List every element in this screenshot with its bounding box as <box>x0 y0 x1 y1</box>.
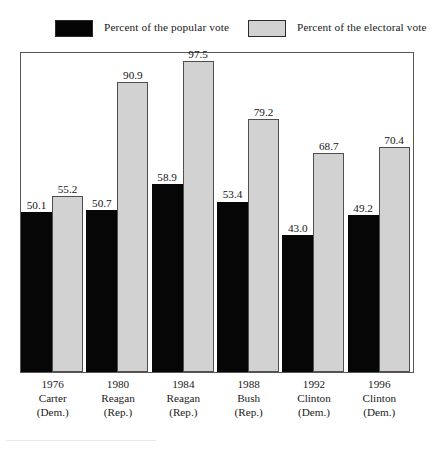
bar-group: 50.155.2 <box>21 53 86 372</box>
bar-electoral-vote[interactable]: 79.2 <box>248 119 279 372</box>
bar-wrap-electoral: 68.7 <box>313 53 344 372</box>
bar-wrap-popular: 43.0 <box>282 53 313 372</box>
bar-popular-vote[interactable]: 53.4 <box>217 202 248 372</box>
chart-plot-frame: 50.155.250.790.958.997.553.479.243.068.7… <box>20 52 414 373</box>
x-axis-party: (Rep.) <box>216 405 281 419</box>
bar-value-electoral: 90.9 <box>123 70 143 81</box>
chart-plot-area: 50.155.250.790.958.997.553.479.243.068.7… <box>21 53 413 372</box>
bar-group: 53.479.2 <box>217 53 282 372</box>
x-axis-group-label: 1984Reagan(Rep.) <box>151 377 216 420</box>
x-axis-party: (Dem.) <box>281 405 346 419</box>
x-axis-year: 1988 <box>216 377 281 391</box>
x-axis-party: (Rep.) <box>151 405 216 419</box>
bar-popular-vote[interactable]: 43.0 <box>282 235 313 372</box>
legend-label-electoral-vote: Percent of the electoral vote <box>297 22 427 33</box>
bar-popular-vote[interactable]: 49.2 <box>348 215 379 372</box>
bar-wrap-electoral: 97.5 <box>183 53 214 372</box>
bar-wrap-popular: 53.4 <box>217 53 248 372</box>
x-axis-year: 1976 <box>20 377 85 391</box>
x-axis-group-label: 1996Clinton(Dem.) <box>347 377 412 420</box>
x-axis-year: 1996 <box>347 377 412 391</box>
bar-value-electoral: 79.2 <box>254 107 274 118</box>
x-axis-party: (Dem.) <box>20 405 85 419</box>
bar-wrap-popular: 50.7 <box>86 53 117 372</box>
bar-group: 49.270.4 <box>348 53 413 372</box>
bar-wrap-electoral: 79.2 <box>248 53 279 372</box>
bar-electoral-vote[interactable]: 97.5 <box>183 61 214 372</box>
bar-popular-vote[interactable]: 58.9 <box>152 184 183 372</box>
legend-swatch-black-icon <box>55 20 93 37</box>
bar-value-electoral: 97.5 <box>188 49 208 60</box>
bar-wrap-electoral: 90.9 <box>117 53 148 372</box>
bar-value-electoral: 70.4 <box>384 135 404 146</box>
bar-value-popular: 49.2 <box>353 203 373 214</box>
bar-wrap-electoral: 55.2 <box>52 53 83 372</box>
legend-item-electoral-vote: Percent of the electoral vote <box>248 16 427 40</box>
page-edge-artifact <box>6 440 156 441</box>
bar-electoral-vote[interactable]: 55.2 <box>52 196 83 372</box>
bar-value-popular: 53.4 <box>223 189 243 200</box>
x-axis-group-label: 1976Carter(Dem.) <box>20 377 85 420</box>
x-axis-group-label: 1992Clinton(Dem.) <box>281 377 346 420</box>
bar-group-spacer <box>410 371 413 372</box>
bar-value-popular: 50.1 <box>27 200 47 211</box>
x-axis-year: 1980 <box>85 377 150 391</box>
x-axis-year: 1984 <box>151 377 216 391</box>
bar-wrap-popular: 49.2 <box>348 53 379 372</box>
bar-wrap-electoral: 70.4 <box>379 53 410 372</box>
x-axis-candidate: Reagan <box>151 391 216 405</box>
bar-electoral-vote[interactable]: 68.7 <box>313 153 344 372</box>
bar-value-popular: 43.0 <box>288 223 308 234</box>
legend-label-popular-vote: Percent of the popular vote <box>104 22 229 33</box>
legend-swatch-gray-icon <box>248 20 286 37</box>
x-axis-labels: 1976Carter(Dem.)1980Reagan(Rep.)1984Reag… <box>20 377 414 420</box>
chart-legend: Percent of the popular vote Percent of t… <box>0 16 439 40</box>
bar-group: 50.790.9 <box>86 53 151 372</box>
x-axis-group-label: 1988Bush(Rep.) <box>216 377 281 420</box>
bar-electoral-vote[interactable]: 70.4 <box>379 147 410 372</box>
x-axis-candidate: Clinton <box>281 391 346 405</box>
x-axis-candidate: Carter <box>20 391 85 405</box>
x-axis-candidate: Reagan <box>85 391 150 405</box>
legend-item-popular-vote: Percent of the popular vote <box>55 16 229 40</box>
x-axis-year: 1992 <box>281 377 346 391</box>
x-axis-candidate: Clinton <box>347 391 412 405</box>
bar-value-popular: 50.7 <box>92 198 112 209</box>
x-axis-party: (Rep.) <box>85 405 150 419</box>
bar-popular-vote[interactable]: 50.1 <box>21 212 52 372</box>
x-axis-party: (Dem.) <box>347 405 412 419</box>
bar-value-electoral: 55.2 <box>58 184 78 195</box>
bar-electoral-vote[interactable]: 90.9 <box>117 82 148 372</box>
x-axis-candidate: Bush <box>216 391 281 405</box>
bar-group: 58.997.5 <box>152 53 217 372</box>
bar-wrap-popular: 50.1 <box>21 53 52 372</box>
bar-value-popular: 58.9 <box>157 172 177 183</box>
bar-popular-vote[interactable]: 50.7 <box>86 210 117 372</box>
bar-group: 43.068.7 <box>282 53 347 372</box>
bar-wrap-popular: 58.9 <box>152 53 183 372</box>
x-axis-group-label: 1980Reagan(Rep.) <box>85 377 150 420</box>
bar-value-electoral: 68.7 <box>319 141 339 152</box>
